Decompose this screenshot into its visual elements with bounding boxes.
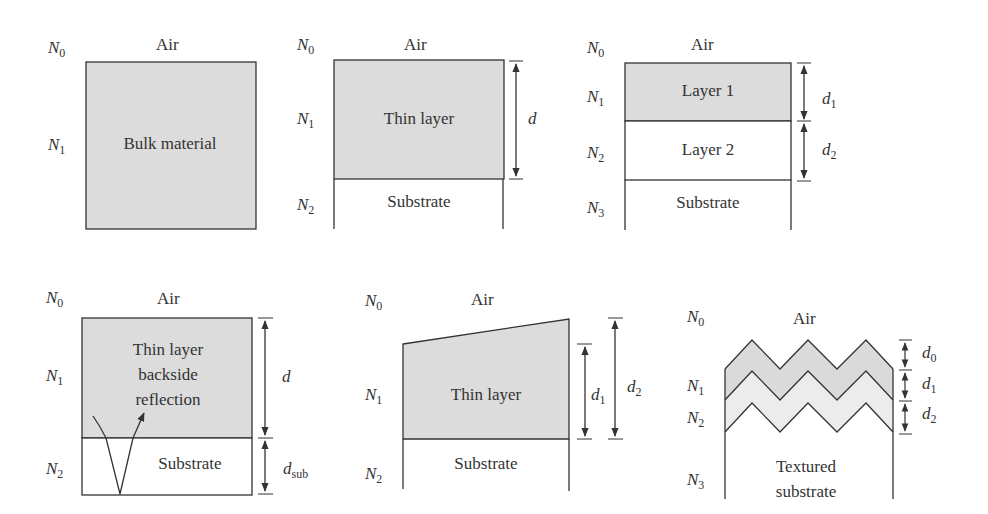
svg-text:d1: d1 xyxy=(822,89,837,111)
svg-text:d: d xyxy=(282,367,291,386)
thin-layer-label: Thin layer xyxy=(384,109,455,128)
index-label-n0: N0 xyxy=(364,291,382,313)
svg-text:d1: d1 xyxy=(922,374,937,396)
thickness-indicator-d: d xyxy=(509,61,537,179)
wedge-thin-layer-region xyxy=(403,319,569,439)
substrate-label: Substrate xyxy=(158,454,221,473)
air-label: Air xyxy=(793,309,816,328)
air-label: Air xyxy=(471,290,494,309)
substrate-label: Substrate xyxy=(454,454,517,473)
index-label-n1: N1 xyxy=(586,87,604,109)
svg-text:d2: d2 xyxy=(822,140,837,162)
svg-text:d2: d2 xyxy=(627,377,642,399)
index-label-n1: N1 xyxy=(45,366,63,388)
thin-layer-label: Thin layer xyxy=(133,340,204,359)
air-label: Air xyxy=(157,289,180,308)
panel-wedge-thin-layer: N0 Air N1 Thin layer N2 Substrate d1 d2 xyxy=(364,290,642,491)
thickness-indicators-d0-d1-d2: d0 d1 d2 xyxy=(899,340,937,434)
bulk-material-label: Bulk material xyxy=(123,134,216,153)
thickness-indicator-dsub: dsub xyxy=(258,441,308,494)
index-label-n0: N0 xyxy=(296,35,314,57)
index-label-n3: N3 xyxy=(586,198,604,220)
layer-2-label: Layer 2 xyxy=(682,140,734,159)
thickness-indicator-d2: d2 xyxy=(608,318,642,439)
index-label-n0: N0 xyxy=(47,38,65,60)
textured-label: Textured xyxy=(776,457,837,476)
svg-text:d: d xyxy=(528,109,537,128)
index-label-n2: N2 xyxy=(296,195,314,217)
index-label-n2: N2 xyxy=(364,464,382,486)
substrate-label: substrate xyxy=(776,482,836,501)
air-label: Air xyxy=(156,35,179,54)
index-label-n2: N2 xyxy=(586,143,604,165)
index-label-n0: N0 xyxy=(586,38,604,60)
svg-text:d2: d2 xyxy=(922,404,937,426)
layer-2-zigzag-region xyxy=(725,371,893,432)
thickness-indicator-d: d xyxy=(258,318,291,438)
svg-text:dsub: dsub xyxy=(283,459,308,481)
svg-text:d0: d0 xyxy=(922,343,937,365)
substrate-label: Substrate xyxy=(387,192,450,211)
substrate-label: Substrate xyxy=(676,193,739,212)
index-label-n1: N1 xyxy=(686,376,704,398)
index-label-n0: N0 xyxy=(686,307,704,329)
panel-thin-layer: N0 Air N1 Thin layer N2 Substrate d xyxy=(296,35,537,229)
panel-backside-reflection: N0 Air N1 Thin layer backside reflection… xyxy=(45,288,308,495)
layer-1-label: Layer 1 xyxy=(682,81,734,100)
panel-bulk-material: N0 Air N1 Bulk material xyxy=(47,35,256,229)
backside-label: backside xyxy=(138,365,197,384)
index-label-n1: N1 xyxy=(364,385,382,407)
thickness-indicator-d1: d1 xyxy=(577,344,606,439)
index-label-n3: N3 xyxy=(686,470,704,492)
air-label: Air xyxy=(691,35,714,54)
thin-layer-label: Thin layer xyxy=(451,385,522,404)
index-label-n2: N2 xyxy=(45,459,63,481)
index-label-n1: N1 xyxy=(296,109,314,131)
air-label: Air xyxy=(404,35,427,54)
thin-film-models-diagram: N0 Air N1 Bulk material N0 Air N1 Thin l… xyxy=(0,0,988,514)
index-label-n1: N1 xyxy=(47,135,65,157)
index-label-n2: N2 xyxy=(686,408,704,430)
thickness-indicator-d2: d2 xyxy=(797,124,837,181)
thickness-indicator-d1: d1 xyxy=(797,63,837,121)
panel-two-layers: N0 Air N1 Layer 1 N2 Layer 2 N3 Substrat… xyxy=(586,35,837,230)
panel-textured-substrate: N0 Air N1 N2 N3 Textured substrate d0 d1… xyxy=(686,307,937,501)
index-label-n0: N0 xyxy=(45,288,63,310)
svg-text:d1: d1 xyxy=(591,385,606,407)
reflection-label: reflection xyxy=(135,390,201,409)
